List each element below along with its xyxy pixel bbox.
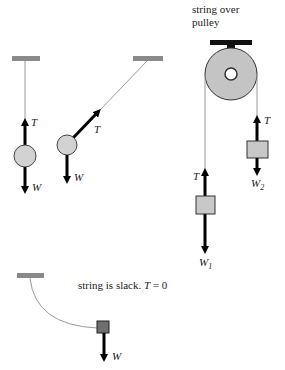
- left-tension-label: T: [193, 170, 200, 182]
- dark-block: [97, 321, 109, 333]
- panel-slack-string: W string is slack. T = 0: [17, 273, 168, 362]
- pulley-caption-line1: string over: [192, 3, 240, 15]
- ball: [57, 135, 77, 155]
- tension-label: T: [31, 116, 38, 128]
- left-weight-label: W1: [199, 256, 212, 271]
- slack-caption: string is slack. T = 0: [78, 279, 168, 291]
- right-tension-label: T: [264, 114, 271, 126]
- ceiling-mount: [133, 56, 163, 61]
- pulley-mount-stem: [227, 44, 235, 48]
- left-mass-block: [196, 196, 215, 214]
- tension-diagram: T W T W string over pulley T W1 T: [0, 0, 285, 370]
- tension-label: T: [94, 123, 101, 135]
- weight-label: W: [74, 171, 84, 183]
- ceiling-mount: [12, 56, 40, 61]
- panel-angled-hang: T W: [57, 56, 163, 183]
- right-weight-label: W2: [251, 177, 264, 192]
- pulley-axle: [225, 68, 237, 80]
- right-mass-block: [247, 141, 268, 158]
- weight-label: W: [112, 350, 122, 362]
- weight-label: W: [32, 181, 42, 193]
- panel-pulley: string over pulley T W1 T W2: [192, 3, 271, 271]
- panel-vertical-hang: T W: [12, 56, 42, 193]
- ball: [14, 145, 36, 167]
- pulley-caption-line2: pulley: [192, 16, 220, 28]
- ceiling-mount: [17, 273, 44, 278]
- string: [100, 61, 147, 110]
